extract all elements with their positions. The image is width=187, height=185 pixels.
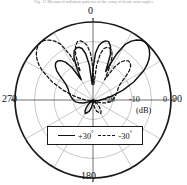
legend-entry-plus30: +30°: [58, 129, 93, 141]
figure-root: Fig. 12 Measured radiation patterns of t…: [0, 0, 187, 185]
radial-tick-minus20: -20: [104, 96, 115, 104]
legend-solid-line-icon: [58, 135, 75, 136]
angle-label-90: 90: [172, 94, 182, 104]
radial-tick-0: 0: [163, 96, 167, 104]
angle-label-0: 0: [88, 6, 93, 16]
legend: +30° -30°: [47, 126, 143, 145]
polar-plot-canvas: [0, 0, 187, 185]
angle-label-270: 270: [2, 94, 17, 104]
legend-label-plus30: +30°: [78, 129, 93, 141]
legend-dashed-line-icon: [98, 135, 115, 136]
radial-tick-minus10: -10: [129, 96, 140, 104]
radial-unit-label: (dB): [136, 107, 151, 115]
legend-label-minus30: -30°: [118, 129, 131, 141]
angle-label-180: 180: [81, 171, 96, 181]
legend-entry-minus30: -30°: [98, 129, 131, 141]
